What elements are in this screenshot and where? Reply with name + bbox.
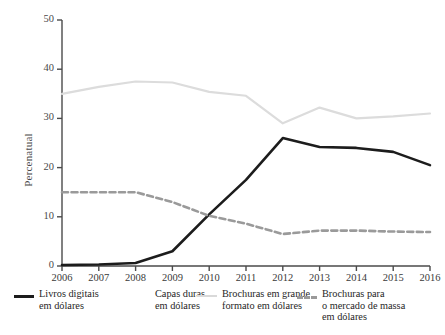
series-line xyxy=(62,192,430,234)
legend-swatch-icon xyxy=(14,291,34,301)
series-line xyxy=(62,138,430,265)
series-line xyxy=(62,82,430,124)
legend-swatch-icon xyxy=(197,291,217,301)
legend-item[interactable]: Brochuras em grande formato em dólares xyxy=(197,288,310,311)
legend-item-label: Brochuras para o mercado de massa em dól… xyxy=(322,288,405,323)
legend-swatch-icon xyxy=(130,291,150,301)
legend-swatch-icon xyxy=(297,291,317,301)
legend-item-label: Livros digitais em dólares xyxy=(39,288,99,311)
legend-item[interactable]: Brochuras para o mercado de massa em dól… xyxy=(297,288,405,323)
legend-item[interactable]: Livros digitais em dólares xyxy=(14,288,99,311)
legend-item[interactable]: Capas duras em dólares xyxy=(130,288,205,311)
chart-legend: Livros digitais em dólaresCapas duras em… xyxy=(0,288,438,335)
